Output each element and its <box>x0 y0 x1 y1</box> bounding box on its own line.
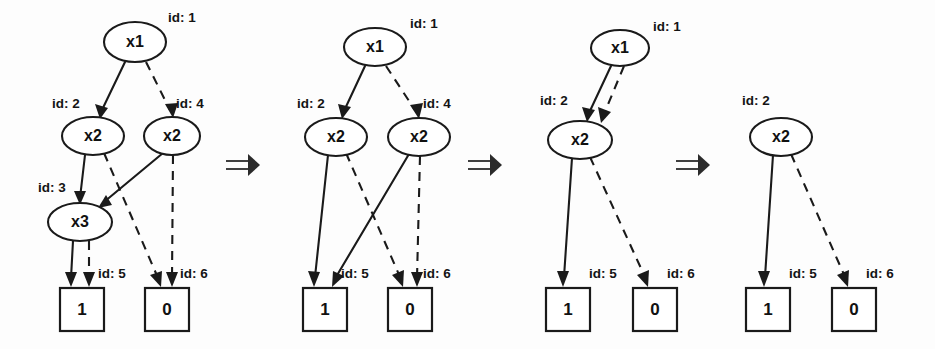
panel-3: x1 id: 1 x2 id: 2 1 id: 5 0 id: 6 <box>540 19 695 331</box>
node-id-2[interactable]: x2 id: 2 <box>52 96 124 155</box>
node-label-x2-left: x2 <box>327 128 345 145</box>
transform-arrow-1-head <box>248 154 260 176</box>
node-label-x2: x2 <box>571 131 589 148</box>
bdd-reduction-figure: x1 id: 1 x2 id: 2 x2 id: 4 x3 id: 3 1 <box>0 0 935 349</box>
node-id-3[interactable]: x3 id: 3 <box>38 180 112 241</box>
edge-2-to-5-solid <box>564 158 572 277</box>
node-label-x3: x3 <box>71 213 89 230</box>
id-label-2: id: 2 <box>297 96 325 111</box>
terminal-label-zero: 0 <box>162 300 171 319</box>
edge-1-to-4-dashed <box>386 66 415 110</box>
id-label-6: id: 6 <box>866 266 894 281</box>
transform-arrow-2-head <box>490 154 502 176</box>
node-id-2[interactable]: x2 id: 2 <box>297 96 367 156</box>
transform-arrow-2 <box>468 154 502 176</box>
arrowhead-3-to-5-solid <box>65 272 77 287</box>
edge-1-to-4-dashed <box>146 62 170 110</box>
arrowhead-1-to-2 <box>582 107 595 122</box>
terminal-id-5[interactable]: 1 id: 5 <box>746 266 817 331</box>
panel-1: x1 id: 1 x2 id: 2 x2 id: 4 x3 id: 3 1 <box>38 10 208 331</box>
panel-4: x2 id: 2 1 id: 5 0 id: 6 <box>742 93 894 331</box>
terminal-label-one: 1 <box>763 300 772 319</box>
node-id-2[interactable]: x2 id: 2 <box>540 93 612 159</box>
node-label-x2-left: x2 <box>84 127 102 144</box>
id-label-1: id: 1 <box>168 10 196 25</box>
node-label-x2-right: x2 <box>410 128 428 145</box>
id-label-3: id: 3 <box>38 180 66 195</box>
edge-1-to-2-solid <box>344 66 365 111</box>
transform-arrow-3-head <box>698 154 710 176</box>
terminal-label-zero: 0 <box>405 300 414 319</box>
id-label-5: id: 5 <box>98 266 126 281</box>
transform-arrow-3 <box>676 154 710 176</box>
transform-arrow-1 <box>226 154 260 176</box>
id-label-5: id: 5 <box>341 266 369 281</box>
arrowhead-3-to-5-dashed <box>83 272 95 287</box>
arrowhead-2-to-6 <box>392 270 404 287</box>
node-label-x2: x2 <box>772 128 790 145</box>
node-label-x1: x1 <box>611 39 629 56</box>
node-id-1[interactable]: x1 id: 1 <box>104 10 196 62</box>
terminal-label-one: 1 <box>563 300 572 319</box>
terminal-label-one: 1 <box>77 300 86 319</box>
arrowhead-2-to-5 <box>557 271 569 287</box>
arrowhead-2-to-5 <box>308 271 320 287</box>
edge-2-to-5-solid <box>315 155 328 277</box>
edge-1-to-2-solid <box>101 62 125 112</box>
id-label-2: id: 2 <box>52 96 80 111</box>
edge-1-to-2-solid <box>589 66 611 113</box>
terminal-label-zero: 0 <box>650 300 659 319</box>
id-label-2: id: 2 <box>540 93 568 108</box>
id-label-5: id: 5 <box>589 266 617 281</box>
node-id-1[interactable]: x1 id: 1 <box>591 19 681 66</box>
edge-2-to-6-dashed <box>590 157 645 277</box>
arrowhead-2-to-6 <box>150 271 162 287</box>
node-label-x1: x1 <box>366 38 384 55</box>
terminal-label-one: 1 <box>320 300 329 319</box>
id-label-4: id: 4 <box>176 96 204 111</box>
arrowhead-1-to-2-dashed <box>598 107 611 123</box>
node-id-1[interactable]: x1 id: 1 <box>344 16 438 66</box>
node-id-2[interactable]: x2 id: 2 <box>742 93 812 156</box>
arrowhead-4-to-6-dashed <box>166 272 178 287</box>
edge-2-to-6-dashed <box>791 154 845 277</box>
arrowhead-1-to-4 <box>410 103 423 119</box>
node-label-x1: x1 <box>126 33 144 50</box>
edge-4-to-3-solid <box>104 153 163 202</box>
edge-2-to-6-dashed <box>104 153 158 278</box>
id-label-6: id: 6 <box>180 266 208 281</box>
panel-3-edges <box>557 66 649 287</box>
diagram-canvas: x1 id: 1 x2 id: 2 x2 id: 4 x3 id: 3 1 <box>0 0 935 349</box>
edge-2-to-5-solid <box>765 155 773 277</box>
id-label-1: id: 1 <box>653 19 681 34</box>
id-label-1: id: 1 <box>410 16 438 31</box>
panel-1-edges <box>65 62 178 287</box>
arrowhead-4-to-6-dashed <box>411 272 423 287</box>
panel-2-edges <box>308 66 423 287</box>
terminal-label-zero: 0 <box>849 300 858 319</box>
edge-4-to-6-dashed <box>417 156 420 278</box>
arrowhead-2-to-6 <box>837 270 849 287</box>
id-label-6: id: 6 <box>667 266 695 281</box>
arrowhead-1-to-2 <box>338 104 351 119</box>
id-label-2: id: 2 <box>742 93 770 108</box>
terminal-id-5[interactable]: 1 id: 5 <box>546 266 617 331</box>
id-label-4: id: 4 <box>423 96 451 111</box>
edge-4-to-6-dashed <box>172 155 173 278</box>
node-label-x2-right: x2 <box>163 127 181 144</box>
id-label-5: id: 5 <box>789 266 817 281</box>
edge-4-to-5-solid <box>336 154 409 277</box>
id-label-6: id: 6 <box>423 266 451 281</box>
arrowhead-2-to-5 <box>758 271 770 287</box>
panel-2: x1 id: 1 x2 id: 2 x2 id: 4 1 id: 5 0 <box>297 16 451 331</box>
arrowhead-2-to-6 <box>637 270 649 287</box>
